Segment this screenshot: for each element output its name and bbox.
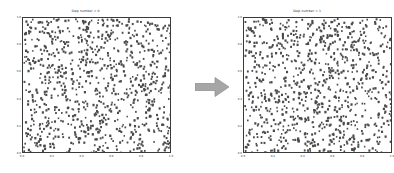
ytick-label: 0.6: [17, 70, 21, 73]
xtick-label: 1.0: [390, 155, 394, 158]
panel-right-points: [244, 18, 391, 152]
xtick-label: 0.6: [109, 155, 113, 158]
xtick-label: 1.0: [169, 155, 173, 158]
panel-right: Step number = 1 1.0 0.8 0.6 0.4 0.2 0.0 …: [221, 0, 393, 173]
scatter-figure: Step number = 0 1.0 0.8 0.6 0.4 0.2 0.0 …: [0, 0, 394, 173]
xtick-label: 0.0: [241, 155, 245, 158]
panel-left-axes: [22, 17, 171, 153]
xtick-label: 0.0: [20, 155, 24, 158]
ytick-label: 1.0: [238, 16, 242, 19]
xtick-label: 0.4: [79, 155, 83, 158]
panel-left-xtick-labels: 0.0 0.2 0.4 0.6 0.8 1.0: [22, 155, 171, 163]
panel-left: Step number = 0 1.0 0.8 0.6 0.4 0.2 0.0 …: [0, 0, 172, 173]
panel-right-title: Step number = 1: [221, 9, 393, 13]
panel-right-axes: [243, 17, 392, 153]
panel-left-title: Step number = 0: [0, 9, 172, 13]
xtick-label: 0.2: [271, 155, 275, 158]
panel-right-ytick-labels: 1.0 0.8 0.6 0.4 0.2 0.0: [225, 17, 242, 153]
ytick-label: 0.8: [17, 43, 21, 46]
ytick-label: 0.6: [238, 70, 242, 73]
xtick-label: 0.6: [330, 155, 334, 158]
xtick-label: 0.8: [360, 155, 364, 158]
ytick-label: 0.4: [238, 97, 242, 100]
xtick-label: 0.4: [300, 155, 304, 158]
ytick-label: 0.2: [238, 124, 242, 127]
xtick-label: 0.8: [139, 155, 143, 158]
panel-right-xtick-labels: 0.0 0.2 0.4 0.6 0.8 1.0: [243, 155, 392, 163]
ytick-label: 1.0: [17, 16, 21, 19]
panel-left-ytick-labels: 1.0 0.8 0.6 0.4 0.2 0.0: [4, 17, 21, 153]
panel-left-points: [23, 18, 170, 152]
ytick-label: 0.2: [17, 124, 21, 127]
ytick-label: 0.8: [238, 43, 242, 46]
ytick-label: 0.4: [17, 97, 21, 100]
xtick-label: 0.2: [50, 155, 54, 158]
